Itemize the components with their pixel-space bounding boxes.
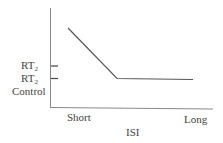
rt2c-text: RT [21,72,34,84]
rt2-text: RT [21,59,34,71]
x-axis-title: ISI [126,127,139,138]
rt2-subscript: 2 [34,65,38,73]
data-line [68,28,193,80]
x-axis [50,108,213,110]
x-tick-short: Short [67,112,91,123]
y-label-control: Control [12,86,46,97]
x-tick-long: Long [184,114,207,125]
